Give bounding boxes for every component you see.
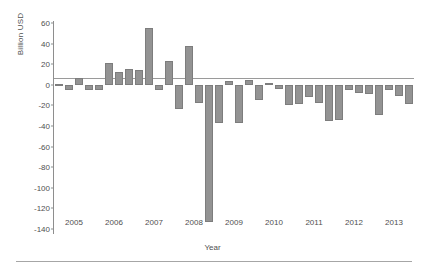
y-tick-mark	[51, 105, 54, 106]
bar	[135, 70, 143, 84]
x-tick-label: 2012	[345, 218, 363, 227]
bar	[275, 85, 283, 89]
footer-divider	[16, 261, 412, 262]
x-axis-title: Year	[0, 243, 425, 252]
bar	[165, 61, 173, 85]
plot-area: 6040200-20-40-60-80-100-120-140	[54, 21, 414, 234]
x-tick-label: 2011	[305, 218, 322, 227]
x-tick-label: 2013	[385, 218, 403, 227]
y-tick-mark	[51, 228, 54, 229]
bar	[305, 85, 313, 97]
bar	[215, 85, 223, 123]
bar	[335, 85, 343, 120]
y-tick-mark	[51, 167, 54, 168]
bar	[265, 83, 273, 85]
bar	[385, 85, 393, 90]
y-tick-mark	[51, 208, 54, 209]
bar	[145, 28, 153, 85]
bar	[105, 63, 113, 85]
x-tick-label: 2006	[105, 218, 123, 227]
bar	[195, 85, 203, 104]
bar	[355, 85, 363, 93]
bar	[315, 85, 323, 104]
bar	[295, 85, 303, 105]
x-tick-label: 2010	[265, 218, 283, 227]
y-tick-mark	[51, 187, 54, 188]
bar	[225, 81, 233, 85]
y-tick-mark	[51, 23, 54, 24]
y-tick-mark	[51, 84, 54, 85]
y-tick-mark	[51, 64, 54, 65]
bar	[185, 46, 193, 85]
x-tick-label: 2005	[65, 218, 83, 227]
bar	[395, 85, 403, 96]
bar	[405, 85, 413, 105]
bar	[345, 85, 353, 90]
bar	[125, 69, 133, 84]
bar	[285, 85, 293, 106]
y-tick-mark	[51, 125, 54, 126]
bar	[245, 80, 253, 85]
bar	[235, 85, 243, 123]
y-axis-title: Billion USD	[14, 0, 28, 84]
x-tick-label: 2007	[145, 218, 163, 227]
bar	[115, 72, 123, 84]
bar	[325, 85, 333, 121]
bar	[155, 85, 163, 90]
x-tick-label: 2008	[185, 218, 203, 227]
y-tick-mark	[51, 43, 54, 44]
bar	[175, 85, 183, 110]
bar	[85, 85, 93, 90]
bar	[65, 85, 73, 90]
bar	[55, 84, 63, 86]
chart-figure: Billion USD 6040200-20-40-60-80-100-120-…	[0, 0, 425, 276]
bar	[205, 85, 213, 222]
bar	[375, 85, 383, 115]
bar	[95, 85, 103, 90]
x-tick-label: 2009	[225, 218, 243, 227]
y-tick-mark	[51, 146, 54, 147]
bar	[75, 78, 83, 85]
bar	[255, 85, 263, 100]
bar	[365, 85, 373, 94]
